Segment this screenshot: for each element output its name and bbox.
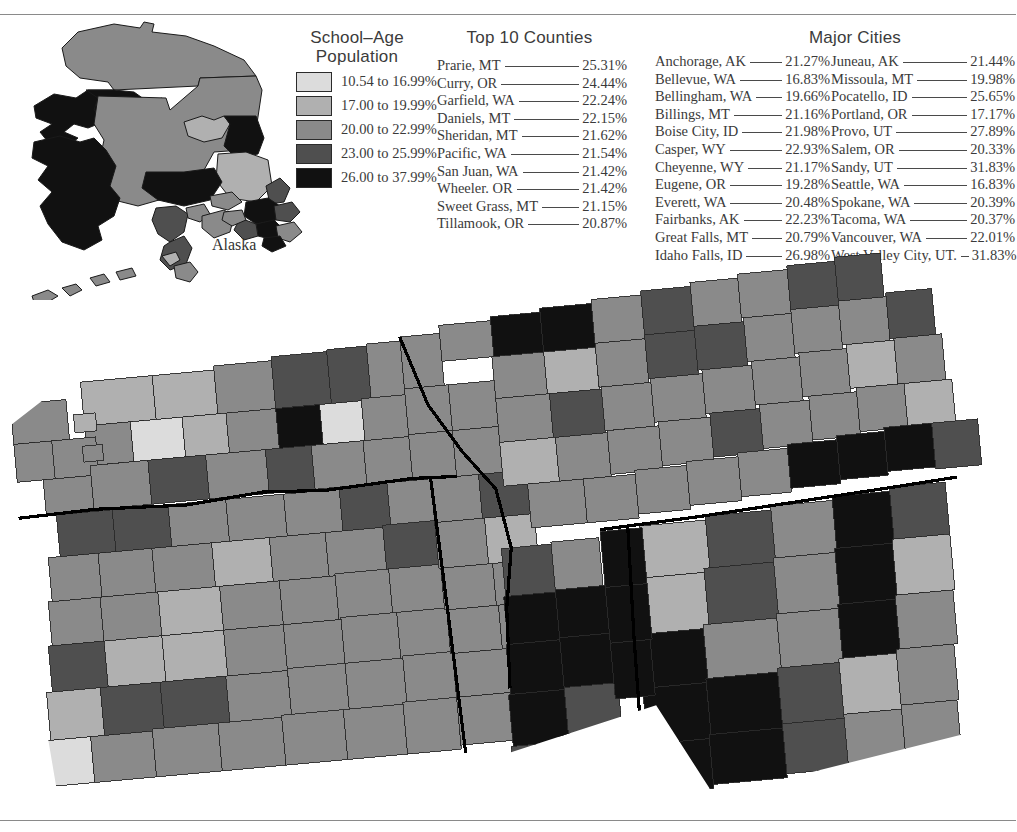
county xyxy=(844,709,906,764)
major-cities-list-left: Anchorage, AK21.27%Bellevue, WA16.83%Bel… xyxy=(655,53,830,264)
county xyxy=(560,633,616,688)
leader-line xyxy=(501,84,579,85)
county xyxy=(511,741,573,798)
city-list-item: Spokane, WA20.39% xyxy=(831,194,1015,212)
legend-label: 23.00 to 25.99% xyxy=(341,145,437,162)
entry-name: Casper, WY xyxy=(655,141,726,158)
county xyxy=(743,313,795,361)
county xyxy=(703,618,782,678)
entry-value: 22.23% xyxy=(785,211,830,228)
city-list-item: Vancouver, WA22.01% xyxy=(831,229,1015,247)
leader-line xyxy=(744,220,783,221)
county xyxy=(889,482,949,539)
county xyxy=(361,395,409,441)
county xyxy=(932,419,982,469)
county xyxy=(504,592,560,645)
county xyxy=(152,723,222,777)
county xyxy=(738,448,792,496)
county xyxy=(91,731,157,782)
leader-line xyxy=(730,203,782,204)
county xyxy=(182,413,229,457)
county xyxy=(363,437,413,485)
county xyxy=(702,365,756,413)
leader-line xyxy=(505,66,580,67)
legend-title: School–Age Population xyxy=(290,28,424,66)
leader-line xyxy=(734,115,782,116)
entry-name: Sweet Grass, MT xyxy=(437,198,538,215)
county-list-item: Curry, OR24.44% xyxy=(437,75,627,93)
leader-line xyxy=(917,80,967,81)
county xyxy=(339,483,391,531)
county xyxy=(112,505,172,552)
county xyxy=(607,426,663,475)
county-list-item: Tillamook, OR20.87% xyxy=(437,215,627,233)
county xyxy=(100,682,164,735)
county xyxy=(737,270,791,318)
county xyxy=(799,349,851,397)
county xyxy=(10,400,69,445)
city-list-item: Casper, WY22.93% xyxy=(655,141,830,159)
entry-name: Garfield, WA xyxy=(437,92,515,109)
legend-row: 17.00 to 19.99% xyxy=(296,94,437,117)
county xyxy=(448,381,498,431)
leader-line xyxy=(752,238,782,239)
city-list-item: Portland, OR17.17% xyxy=(831,106,1015,124)
county xyxy=(387,479,435,527)
county xyxy=(409,431,457,481)
entry-name: Portland, OR xyxy=(831,106,908,123)
county xyxy=(48,597,104,646)
county xyxy=(492,352,548,399)
county xyxy=(645,330,699,378)
legend-row: 20.00 to 22.99% xyxy=(296,118,437,141)
county xyxy=(265,445,315,493)
entry-name: Wheeler. OR xyxy=(437,180,513,197)
county xyxy=(276,405,323,449)
county xyxy=(98,548,156,597)
legend-swatch xyxy=(296,72,332,92)
entry-name: Tacoma, WA xyxy=(831,211,906,228)
leader-line xyxy=(730,185,782,186)
county xyxy=(601,382,655,430)
county xyxy=(569,734,629,791)
county xyxy=(311,441,367,490)
city-list-item: Everett, WA20.48% xyxy=(655,194,830,212)
county-list-item: Prarie, MT25.31% xyxy=(437,57,627,75)
leader-line xyxy=(914,203,967,204)
county xyxy=(686,457,742,506)
leader-line xyxy=(517,189,580,190)
entry-value: 16.83% xyxy=(785,71,830,88)
county xyxy=(886,289,936,339)
entry-name: Everett, WA xyxy=(655,194,726,211)
entry-name: Anchorage, AK xyxy=(655,53,746,70)
county xyxy=(325,527,387,576)
entry-value: 22.24% xyxy=(582,92,627,109)
legend-row: 23.00 to 25.99% xyxy=(296,142,437,165)
county xyxy=(892,534,955,595)
county-list-item: San Juan, WA21.42% xyxy=(437,163,627,181)
entry-value: 22.15% xyxy=(582,110,627,127)
leader-line xyxy=(748,168,782,169)
county xyxy=(496,394,554,443)
entry-value: 27.89% xyxy=(970,123,1015,140)
city-list-item: Great Falls, MT20.79% xyxy=(655,229,830,247)
county xyxy=(635,466,691,515)
main-map-svg xyxy=(0,248,1016,820)
top-counties-list: Prarie, MT25.31%Curry, OR24.44%Garfield,… xyxy=(437,57,627,233)
entry-value: 20.39% xyxy=(970,194,1015,211)
county xyxy=(56,510,116,557)
leader-line xyxy=(730,150,782,151)
entry-name: Great Falls, MT xyxy=(655,229,748,246)
legend-label: 10.54 to 16.99% xyxy=(341,73,437,90)
county xyxy=(319,401,364,445)
county xyxy=(500,437,560,486)
leader-line xyxy=(519,101,579,102)
county xyxy=(45,737,95,787)
county xyxy=(279,576,339,625)
county xyxy=(447,605,503,654)
entry-value: 21.16% xyxy=(785,106,830,123)
county xyxy=(884,423,936,471)
county xyxy=(544,347,600,394)
leader-line xyxy=(903,62,968,63)
entry-name: Bellevue, WA xyxy=(655,71,736,88)
legend-row: 26.00 to 37.99% xyxy=(296,166,437,189)
